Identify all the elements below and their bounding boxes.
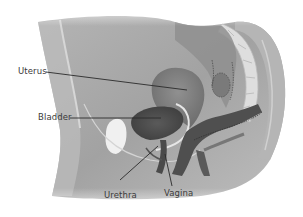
pelvis-illustration	[0, 0, 303, 217]
label-vagina: Vagina	[164, 189, 193, 198]
label-uterus: Uterus	[18, 67, 47, 76]
label-bladder: Bladder	[38, 113, 72, 122]
pelvis-anatomy-diagram: Uterus Bladder Urethra Vagina	[0, 0, 303, 217]
label-urethra: Urethra	[104, 191, 137, 200]
